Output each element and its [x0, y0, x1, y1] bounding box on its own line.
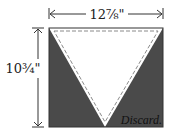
discard-label: Discard.	[120, 113, 162, 127]
height-label: 10¾"	[5, 61, 40, 76]
quilt-cutting-diagram: 12⅞" 10¾" Discard.	[0, 0, 173, 136]
width-label: 12⅞"	[89, 7, 124, 22]
width-dimension: 12⅞"	[49, 7, 163, 22]
height-dimension: 10¾"	[5, 28, 44, 127]
